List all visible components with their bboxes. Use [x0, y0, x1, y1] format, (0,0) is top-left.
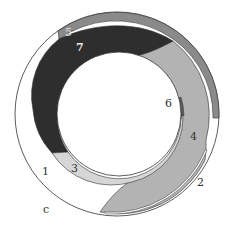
- label-1: 1: [42, 165, 49, 178]
- inner-hole: [57, 52, 181, 176]
- label-6: 6: [165, 97, 172, 110]
- label-3: 3: [71, 162, 78, 175]
- label-2: 2: [197, 176, 204, 189]
- region-diagram: 5 7 6 4 3 1 2 c: [0, 0, 232, 227]
- label-c: c: [43, 203, 49, 216]
- label-5: 5: [65, 26, 72, 39]
- label-7: 7: [76, 41, 84, 54]
- label-4: 4: [190, 130, 197, 143]
